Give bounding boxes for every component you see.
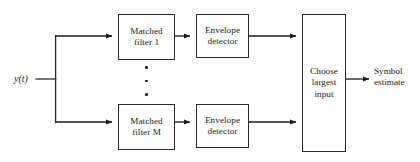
output-label-line-2: estimate (374, 77, 405, 88)
envelope-detector-1-label-line-2: detector (208, 36, 238, 47)
output-label-line-1: Symbol (374, 66, 405, 77)
matched-filter-1-label-line-1: Matched (130, 26, 163, 37)
envelope-detector-m-block: Envelope detector (196, 104, 249, 148)
ellipsis-dot (145, 80, 148, 83)
matched-filter-1-block: Matched filter 1 (118, 14, 175, 60)
envelope-detector-m-label-line-2: detector (208, 126, 238, 137)
input-signal-text: y(t) (14, 73, 28, 84)
choose-largest-input-block: Choose largest input (302, 14, 346, 152)
envelope-detector-m-label-line-1: Envelope (205, 115, 240, 126)
choose-largest-label-line-2: largest (312, 77, 337, 88)
ellipsis-dot (145, 93, 148, 96)
input-signal-label: y(t) (14, 73, 28, 84)
choose-largest-label-line-3: input (314, 89, 333, 100)
block-diagram: y(t) Matched filter 1 Envelope detector … (0, 0, 420, 162)
envelope-detector-1-label-line-1: Envelope (205, 25, 240, 36)
vertical-ellipsis-icon (145, 66, 148, 96)
choose-largest-label-line-1: Choose (310, 66, 338, 77)
output-symbol-estimate-label: Symbol estimate (374, 66, 405, 88)
matched-filter-m-block: Matched filter M (118, 104, 175, 150)
ellipsis-dot (145, 66, 148, 69)
matched-filter-1-label-line-2: filter 1 (134, 37, 159, 48)
matched-filter-m-label-line-2: filter M (132, 127, 161, 138)
envelope-detector-1-block: Envelope detector (196, 14, 249, 58)
matched-filter-m-label-line-1: Matched (130, 116, 163, 127)
